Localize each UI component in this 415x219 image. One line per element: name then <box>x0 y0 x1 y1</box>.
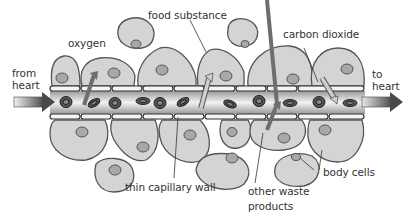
label-body-cells: body cells <box>323 166 375 178</box>
to-heart-arrow <box>362 92 403 112</box>
label-food-substance: food substance <box>148 9 227 21</box>
label-from-heart-line2: heart <box>12 79 39 91</box>
label-other-waste-products: other waste products <box>248 185 309 212</box>
label-to-heart-line2: heart <box>372 80 399 92</box>
label-carbon-dioxide: carbon dioxide <box>283 28 359 40</box>
label-other-waste-line1: other waste <box>248 185 309 197</box>
label-from-heart: from heart <box>12 67 39 91</box>
label-to-heart: to heart <box>372 68 399 92</box>
label-other-waste-line2: products <box>248 200 309 212</box>
from-heart-arrow <box>14 92 55 112</box>
capillary-wall-lower <box>50 114 364 119</box>
label-from-heart-line1: from <box>12 67 39 79</box>
label-thin-capillary-wall: thin capillary wall <box>125 181 216 193</box>
label-oxygen: oxygen <box>68 37 106 49</box>
label-to-heart-line1: to <box>372 68 399 80</box>
